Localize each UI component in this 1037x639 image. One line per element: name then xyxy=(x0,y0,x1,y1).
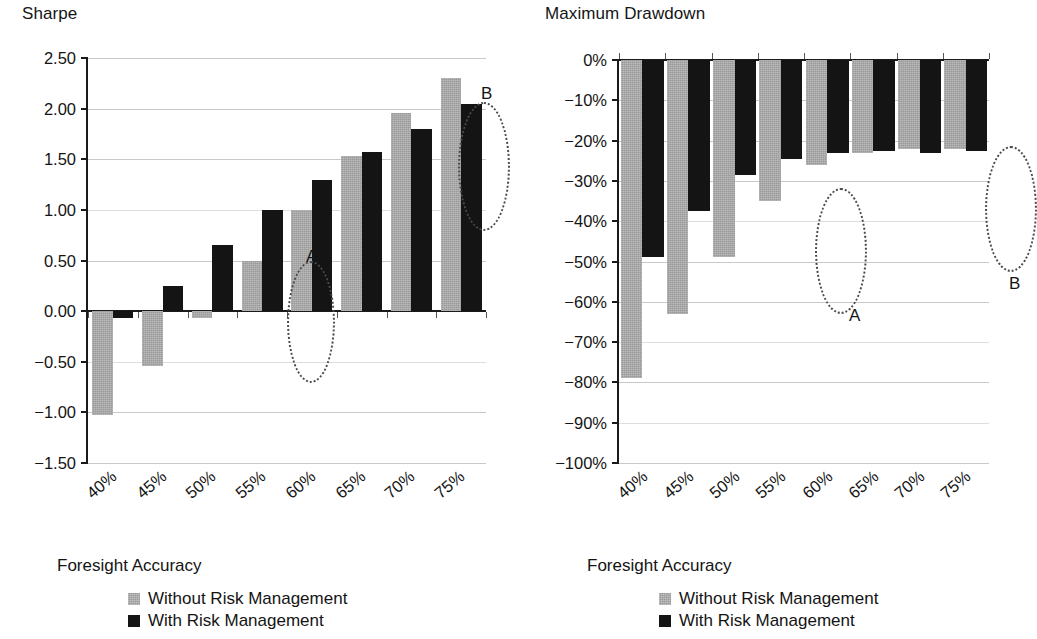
y-axis-line xyxy=(617,60,619,463)
bar[interactable] xyxy=(212,245,232,311)
legend-sharpe: Without Risk Management With Risk Manage… xyxy=(128,588,347,632)
legend-item-without-risk-management[interactable]: Without Risk Management xyxy=(659,588,878,610)
bar[interactable] xyxy=(621,60,643,378)
y-axis-line xyxy=(86,58,88,463)
y-axis-tick-label: 1.50 xyxy=(20,151,76,168)
x-axis-tick xyxy=(850,53,851,59)
bar[interactable] xyxy=(142,311,162,366)
bar[interactable] xyxy=(667,60,689,314)
gridline xyxy=(619,342,989,343)
x-axis-tick-label: 60% xyxy=(282,468,318,502)
y-axis-tick-label: −1.00 xyxy=(20,404,76,421)
x-axis-tick xyxy=(619,53,620,59)
y-axis-tick-label: −30% xyxy=(541,173,607,190)
bar[interactable] xyxy=(312,180,332,312)
bar[interactable] xyxy=(781,60,803,159)
legend-max-drawdown: Without Risk Management With Risk Manage… xyxy=(659,588,878,632)
bar[interactable] xyxy=(411,129,431,311)
y-axis-tick-label: 0.50 xyxy=(20,253,76,270)
bar[interactable] xyxy=(262,210,282,311)
bar[interactable] xyxy=(873,60,895,151)
annotation-label-b: B xyxy=(1009,275,1020,292)
x-axis-tick xyxy=(88,312,89,318)
x-axis-tick-label: 55% xyxy=(753,468,789,502)
x-axis-tick xyxy=(758,53,759,59)
y-axis-tick-label: 0.00 xyxy=(20,303,76,320)
bar[interactable] xyxy=(852,60,874,153)
bar[interactable] xyxy=(92,311,112,415)
x-axis-tick-label: 70% xyxy=(382,468,418,502)
gridline xyxy=(619,463,989,464)
annotation-label-b: B xyxy=(481,85,492,102)
legend-label: Without Risk Management xyxy=(148,589,347,609)
y-axis-tick-label: −50% xyxy=(541,254,607,271)
y-axis-tick-label: −1.50 xyxy=(20,455,76,472)
bar[interactable] xyxy=(242,261,262,312)
x-axis-tick-label: 65% xyxy=(332,468,368,502)
x-axis-tick-label: 75% xyxy=(938,468,974,502)
bar[interactable] xyxy=(391,113,411,311)
bar[interactable] xyxy=(341,156,361,311)
x-axis-tick-label: 65% xyxy=(845,468,881,502)
y-axis-tick-label: −90% xyxy=(541,415,607,432)
x-axis-tick-label: 45% xyxy=(660,468,696,502)
x-axis-tick xyxy=(943,53,944,59)
x-axis-tick-label: 75% xyxy=(432,468,468,502)
y-axis-tick-label: 2.50 xyxy=(20,50,76,67)
annotation-label-a: A xyxy=(306,248,317,265)
bar[interactable] xyxy=(192,311,212,318)
bar[interactable] xyxy=(944,60,966,149)
annotation-ellipse-b xyxy=(985,146,1037,272)
gridline xyxy=(619,382,989,383)
bar[interactable] xyxy=(163,286,183,311)
chart-title-sharpe: Sharpe xyxy=(22,4,77,24)
y-axis-tick-label: −40% xyxy=(541,213,607,230)
gridline xyxy=(88,463,486,464)
x-axis-tick xyxy=(237,312,238,318)
annotation-ellipse-a xyxy=(815,188,867,314)
legend-swatch-black-icon xyxy=(128,615,140,627)
x-axis-tick-label: 70% xyxy=(891,468,927,502)
plot-area-max-drawdown: 0%−10%−20%−30%−40%−50%−60%−70%−80%−90%−1… xyxy=(619,60,989,463)
gridline xyxy=(88,412,486,413)
bar[interactable] xyxy=(966,60,988,151)
y-axis-tick-label: −100% xyxy=(541,455,607,472)
x-axis-label-max-drawdown: Foresight Accuracy xyxy=(587,556,732,576)
bar[interactable] xyxy=(827,60,849,153)
x-axis-tick-label: 60% xyxy=(799,468,835,502)
legend-item-without-risk-management[interactable]: Without Risk Management xyxy=(128,588,347,610)
gridline xyxy=(619,423,989,424)
gridline xyxy=(88,109,486,110)
bar[interactable] xyxy=(759,60,781,201)
legend-swatch-gray-icon xyxy=(128,593,140,605)
bar[interactable] xyxy=(735,60,757,175)
bar[interactable] xyxy=(688,60,710,211)
x-axis-tick-label: 50% xyxy=(706,468,742,502)
x-axis-tick-label: 40% xyxy=(614,468,650,502)
x-axis-label-sharpe: Foresight Accuracy xyxy=(57,556,202,576)
x-axis-tick xyxy=(486,312,487,318)
bar[interactable] xyxy=(806,60,828,165)
bar[interactable] xyxy=(362,152,382,311)
x-axis-tick xyxy=(138,312,139,318)
legend-swatch-gray-icon xyxy=(659,593,671,605)
y-axis-tick-label: −70% xyxy=(541,334,607,351)
bar[interactable] xyxy=(113,311,133,318)
bar[interactable] xyxy=(898,60,920,149)
x-axis-tick xyxy=(665,53,666,59)
bar[interactable] xyxy=(920,60,942,153)
bar[interactable] xyxy=(441,78,461,311)
x-axis-tick xyxy=(897,53,898,59)
y-axis-tick-label: 0% xyxy=(541,52,607,69)
legend-item-with-risk-management[interactable]: With Risk Management xyxy=(659,610,878,632)
bar[interactable] xyxy=(642,60,664,257)
bar[interactable] xyxy=(461,104,481,312)
x-axis-tick xyxy=(804,53,805,59)
x-axis-tick-label: 45% xyxy=(133,468,169,502)
y-axis-tick-label: 2.00 xyxy=(20,101,76,118)
bar[interactable] xyxy=(713,60,735,257)
legend-item-with-risk-management[interactable]: With Risk Management xyxy=(128,610,347,632)
x-axis-tick xyxy=(387,312,388,318)
x-axis-tick xyxy=(712,53,713,59)
